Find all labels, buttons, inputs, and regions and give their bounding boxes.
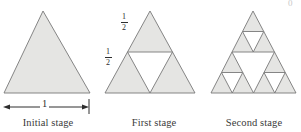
stage-second-sub-triangle bbox=[254, 73, 275, 94]
triangle-stages-canvas bbox=[0, 0, 301, 132]
stage-second-triangle bbox=[211, 11, 296, 93]
caption-initial-stage: Initial stage bbox=[0, 117, 96, 128]
stage-second-sub-triangle bbox=[211, 73, 232, 94]
stage-initial-sub-triangle bbox=[4, 11, 90, 93]
fraction-denominator: 2 bbox=[118, 24, 130, 33]
dimension-label-base-length: 1 bbox=[40, 99, 49, 110]
dimension-arrowhead-right bbox=[82, 104, 89, 109]
cropped-glyph-artifact: 0 bbox=[288, 0, 293, 8]
stage-second-sub-triangle bbox=[222, 52, 243, 73]
stage-second-sub-triangle bbox=[232, 32, 253, 53]
fraction-denominator: 2 bbox=[102, 59, 114, 68]
fraction-label-upper-edge: 1 2 bbox=[118, 13, 130, 32]
fraction-numerator: 1 bbox=[102, 48, 114, 57]
stage-second-sub-triangle bbox=[253, 32, 274, 53]
stage-first-sub-triangle bbox=[128, 11, 173, 52]
caption-first-stage: First stage bbox=[106, 117, 202, 128]
caption-second-stage: Second stage bbox=[206, 117, 301, 128]
sierpinski-figure: Initial stage First stage Second stage 1… bbox=[0, 0, 301, 132]
fraction-label-left-edge: 1 2 bbox=[102, 48, 114, 67]
stage-second-sub-triangle bbox=[275, 73, 296, 94]
dimension-arrowhead-left bbox=[3, 104, 10, 109]
fraction-numerator: 1 bbox=[118, 13, 130, 22]
stage-initial-triangle bbox=[4, 11, 90, 93]
stage-second-sub-triangle bbox=[243, 11, 264, 32]
stage-second-sub-triangle bbox=[264, 52, 285, 73]
stage-second-sub-triangle bbox=[232, 73, 253, 94]
stage-first-sub-triangle bbox=[150, 52, 195, 93]
